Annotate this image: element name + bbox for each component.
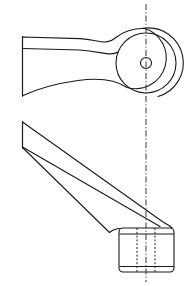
drawing-canvas <box>0 0 188 286</box>
front-view-boss-body <box>119 228 174 272</box>
drawing-sheet <box>0 0 188 286</box>
top-view <box>23 28 184 97</box>
front-view <box>23 122 175 272</box>
front-view-arm-outline <box>23 122 173 233</box>
top-view-arm-outline <box>23 28 167 96</box>
